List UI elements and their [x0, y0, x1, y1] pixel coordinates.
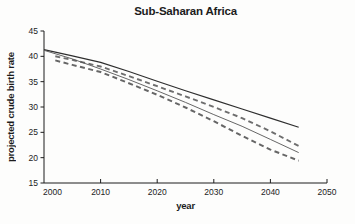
- y-tick-label: 20: [29, 153, 39, 163]
- x-tick-label: 2010: [91, 187, 110, 197]
- line-chart: 45403530252015200020102020203020402050: [0, 0, 355, 224]
- y-tick-label: 15: [29, 178, 39, 188]
- y-tick-label: 35: [29, 77, 39, 87]
- y-tick-label: 25: [29, 127, 39, 137]
- chart-panel: Sub-Saharan Africa projected crude birth…: [0, 0, 355, 224]
- y-tick-label: 40: [29, 51, 39, 61]
- x-tick-label: 2020: [148, 187, 167, 197]
- x-axis-label: year: [44, 200, 327, 211]
- x-tick-label: 2000: [43, 187, 62, 197]
- x-tick-label: 2050: [318, 187, 337, 197]
- x-tick-label: 2040: [261, 187, 280, 197]
- series-line-4: [55, 60, 298, 160]
- x-tick-label: 2030: [204, 187, 223, 197]
- y-tick-label: 45: [29, 26, 39, 36]
- y-tick-label: 30: [29, 102, 39, 112]
